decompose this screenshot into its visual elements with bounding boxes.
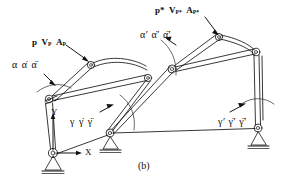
axis-x xyxy=(57,151,82,156)
label-gamma-prime: γ′ xyxy=(218,116,226,127)
label-vp-star: VP* xyxy=(167,5,182,15)
link-mid-vertical xyxy=(108,81,150,131)
link-mid-diagonal xyxy=(112,67,174,133)
label-ap-star: AP* xyxy=(184,5,199,15)
label-alpha-prime-group: α′ α̇′ α̈′ xyxy=(140,30,171,40)
label-gamma-ddot-prime: γ̈′ xyxy=(239,116,247,127)
leader-p-star xyxy=(205,17,219,36)
leader-alpha xyxy=(44,74,56,86)
angle-arc-gamma-prime xyxy=(243,99,274,104)
upper-curved-member-left xyxy=(93,58,147,70)
ground-support-right xyxy=(248,124,269,148)
label-alpha-ddot: α̈ xyxy=(32,59,38,70)
label-alpha-prime: α′ xyxy=(140,29,148,40)
label-alpha: α xyxy=(12,59,18,70)
label-alpha-dot-prime: α̇′ xyxy=(151,29,159,40)
leader-gamma-prime xyxy=(230,103,246,112)
label-gamma-group: γ γ̇ γ̈ xyxy=(70,117,93,127)
linkage-diagram-canvas xyxy=(0,0,284,184)
coupler-left xyxy=(53,74,152,100)
label-vp: VP xyxy=(39,37,51,47)
joint-center xyxy=(168,65,176,73)
label-alpha-ddot-prime: α̈′ xyxy=(163,29,171,40)
figure-caption: (b) xyxy=(138,160,150,171)
coupler-right xyxy=(175,48,260,71)
angle-arc-alpha-prime xyxy=(161,40,176,75)
label-alpha-dot: α̇ xyxy=(22,59,28,70)
link-right-upper xyxy=(174,33,223,70)
label-p-vp-ap: p VP AP xyxy=(32,38,66,48)
label-axis-y: Y xyxy=(51,108,58,117)
label-gamma-ddot: γ̈ xyxy=(88,116,93,127)
label-gamma-dot: γ̇ xyxy=(79,116,84,127)
link-right-column xyxy=(254,55,263,125)
label-gamma: γ xyxy=(70,116,75,127)
label-p-star-group: p* VP* AP* xyxy=(155,6,199,16)
label-alpha-group: α α̇ α̈ xyxy=(12,60,38,70)
label-axis-x: X xyxy=(85,148,92,157)
leader-gamma xyxy=(100,104,114,112)
label-ap: AP xyxy=(54,37,66,47)
leader-p-vp-ap xyxy=(66,45,89,62)
label-p-star: p* xyxy=(155,5,165,15)
label-gamma-prime-group: γ′ γ̇′ γ̈′ xyxy=(218,117,247,127)
label-gamma-dot-prime: γ̇′ xyxy=(229,116,237,127)
label-p: p xyxy=(32,37,37,47)
